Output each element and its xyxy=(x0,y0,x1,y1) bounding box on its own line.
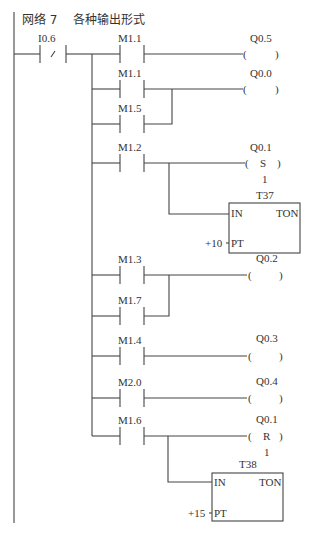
svg-text:(: ( xyxy=(245,157,249,170)
coil-label: Q0.5 xyxy=(250,32,272,44)
coil-left: ( xyxy=(243,48,247,61)
coil-right: ) xyxy=(275,48,279,61)
coil-label: Q0.1 xyxy=(250,141,272,153)
svg-text:PT: PT xyxy=(231,237,244,249)
rung-q0-4[interactable]: M2.0 ( ) Q0.4 xyxy=(92,375,283,407)
timer-name: T37 xyxy=(256,189,274,201)
svg-text:): ) xyxy=(279,350,283,363)
svg-text:): ) xyxy=(279,392,283,405)
svg-text:): ) xyxy=(279,269,283,282)
set-coil-mark: S xyxy=(260,157,266,169)
contact-label: M1.6 xyxy=(118,414,142,426)
contact-label: I0.6 xyxy=(38,32,56,44)
svg-text:TON: TON xyxy=(276,207,298,219)
svg-text:): ) xyxy=(277,157,281,170)
preset-value: +15 xyxy=(188,507,206,519)
svg-text:(: ( xyxy=(248,350,252,363)
rung-q0-1-reset[interactable]: M1.6 ( R ) Q0.1 1 T38 IN TON PT +15 xyxy=(92,413,283,521)
rung-q0-5[interactable]: M1.1 ( ) Q0.5 xyxy=(92,32,279,63)
coil-count: 1 xyxy=(264,446,270,458)
svg-text:IN: IN xyxy=(214,476,226,488)
svg-text:PT: PT xyxy=(214,507,227,519)
svg-text:(: ( xyxy=(248,269,252,282)
contact-label: M1.7 xyxy=(118,294,142,306)
svg-text:TON: TON xyxy=(259,476,281,488)
contact-label: M1.1 xyxy=(118,32,142,44)
ladder-diagram: I0.6 M1.1 ( ) Q0.5 M1.1 ( ) Q0.0 M1.5 M1… xyxy=(0,0,310,538)
contact-i0-6[interactable]: I0.6 xyxy=(14,32,92,63)
rung-q0-2[interactable]: M1.3 ( ) Q0.2 M1.7 xyxy=(92,252,283,325)
rung-q0-3[interactable]: M1.4 ( ) Q0.3 xyxy=(92,332,283,365)
coil-right: ) xyxy=(275,83,279,96)
reset-coil-mark: R xyxy=(263,430,271,442)
svg-text:(: ( xyxy=(248,430,252,443)
coil-label: Q0.0 xyxy=(250,67,272,79)
contact-label: M1.2 xyxy=(118,141,142,153)
contact-label: M1.3 xyxy=(118,253,142,265)
contact-label: M2.0 xyxy=(118,376,142,388)
coil-count: 1 xyxy=(262,173,268,185)
coil-label: Q0.1 xyxy=(256,413,278,425)
contact-label: M1.4 xyxy=(118,334,142,346)
contact-label: M1.5 xyxy=(118,102,142,114)
rung-q0-1-set[interactable]: M1.2 ( S ) Q0.1 1 T37 IN TON PT +10 xyxy=(92,141,300,253)
rung-q0-0[interactable]: M1.1 ( ) Q0.0 M1.5 xyxy=(92,67,279,133)
svg-text:(: ( xyxy=(248,392,252,405)
svg-text:IN: IN xyxy=(231,207,243,219)
svg-text:): ) xyxy=(279,430,283,443)
coil-label: Q0.4 xyxy=(256,375,278,387)
contact-label: M1.1 xyxy=(118,67,142,79)
preset-value: +10 xyxy=(205,237,223,249)
coil-label: Q0.3 xyxy=(256,332,278,344)
timer-name: T38 xyxy=(239,458,257,470)
coil-label: Q0.2 xyxy=(256,252,278,264)
coil-left: ( xyxy=(243,83,247,96)
